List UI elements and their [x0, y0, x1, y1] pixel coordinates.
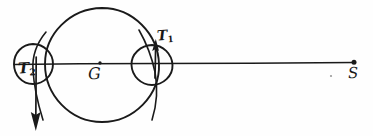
label-center-of-mass: G	[88, 66, 101, 82]
main-body-circle	[45, 8, 159, 122]
label-left-bulge-subscript: 2	[29, 66, 36, 77]
label-center-of-mass-text: G	[88, 64, 101, 83]
central-axis-line	[14, 62, 354, 64]
label-far-point: S	[348, 66, 359, 82]
label-right-bulge-subscript: 1	[167, 34, 174, 44]
diagram-svg	[0, 0, 373, 136]
label-right-bulge: T1	[156, 27, 173, 44]
label-left-bulge-text: T	[17, 59, 29, 78]
stray-pencil-mark	[330, 75, 332, 77]
label-left-bulge: T2	[18, 61, 36, 78]
diagram-canvas: T2 T1 G S	[0, 0, 373, 136]
label-far-point-text: S	[348, 64, 359, 83]
right-tidal-bulge-circle	[131, 45, 172, 85]
